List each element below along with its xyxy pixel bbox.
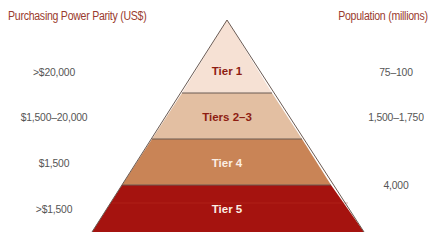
tier-1-band (182, 20, 272, 93)
ppp-tier-2-3: $1,500–20,000 (5, 111, 104, 123)
ppp-tier-4: $1,500 (5, 157, 104, 169)
population-tier-4-5: 4,000 (351, 179, 440, 191)
population-tier-2-3: 1,500–1,750 (351, 111, 440, 123)
tier-1-label: Tier 1 (212, 65, 243, 77)
ppp-tier-5: >$1,500 (5, 203, 104, 215)
tier-4-label: Tier 4 (212, 157, 243, 169)
population-tier-1: 75–100 (351, 66, 440, 78)
tier-5-label: Tier 5 (212, 203, 243, 215)
ppp-tier-1: >$20,000 (5, 66, 104, 78)
tier-2-3-label: Tiers 2–3 (202, 111, 252, 123)
